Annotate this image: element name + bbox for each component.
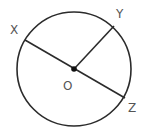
radius-oy	[74, 26, 114, 69]
point-label-z: Z	[128, 102, 136, 114]
point-label-x: X	[10, 24, 18, 36]
point-label-y: Y	[116, 8, 123, 20]
center-label-o: O	[63, 80, 72, 92]
center-point-dot	[71, 66, 77, 72]
